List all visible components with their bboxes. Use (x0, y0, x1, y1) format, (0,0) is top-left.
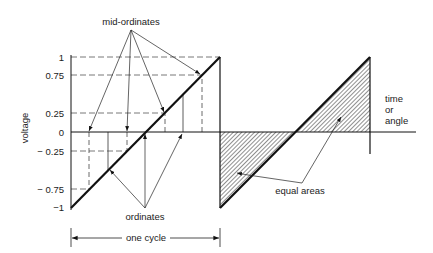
tick-label: 0.25 (46, 108, 65, 119)
tick-label: − 0.25 (37, 146, 64, 157)
horizontal-guides (71, 57, 220, 189)
sawtooth-diagram: 1 0.75 0.25 0 − 0.25 − 0.75 −1 voltage t… (0, 0, 433, 253)
tick-label: 0.75 (46, 70, 65, 81)
equal-areas-label: equal areas (275, 185, 325, 196)
ordinates-arrows (110, 134, 182, 208)
tick-label: − 0.75 (37, 184, 64, 195)
ordinates-label: ordinates (125, 211, 164, 222)
mid-ordinates-label: mid-ordinates (102, 16, 160, 27)
x-label-line: or (385, 104, 393, 115)
one-cycle-label: one cycle (126, 232, 166, 243)
tick-label: −1 (53, 202, 64, 213)
y-tick-labels: 1 0.75 0.25 0 − 0.25 − 0.75 −1 (37, 52, 64, 213)
y-axis-label: voltage (19, 113, 30, 144)
x-label-line: angle (385, 115, 408, 126)
tick-label: 0 (59, 127, 64, 138)
x-axis-label: time or angle (385, 93, 408, 126)
diagram-canvas: 1 0.75 0.25 0 − 0.25 − 0.75 −1 voltage t… (0, 0, 433, 253)
tick-label: 1 (59, 52, 64, 63)
x-label-line: time (385, 93, 403, 104)
